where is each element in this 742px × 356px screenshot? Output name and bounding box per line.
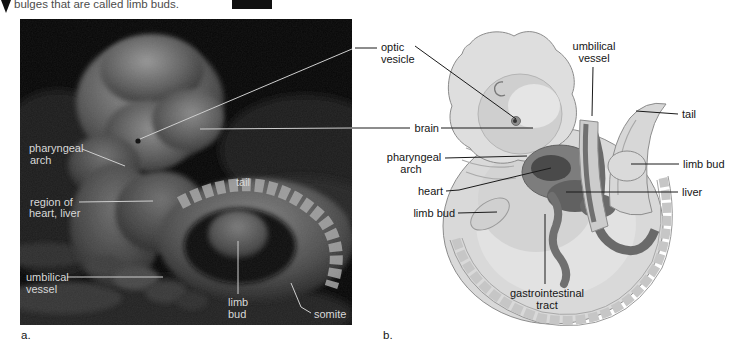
textbook-figure: bulges that are called limb buds.: [0, 0, 742, 356]
label-somite-a: somite: [314, 308, 346, 320]
label-region-heart-liver-line2: heart, liver: [29, 207, 81, 219]
sem-embryo-artwork: [0, 19, 390, 353]
figure-canvas: bulges that are called limb buds.: [0, 0, 742, 356]
label-tail-b: tail: [682, 108, 696, 120]
label-liver-b: liver: [682, 186, 703, 198]
panel-b-tag: b.: [383, 329, 393, 341]
umbilical-vessel-leader-b: [592, 67, 593, 116]
label-limb-bud-left-b: limb bud: [413, 207, 455, 219]
label-pharyngeal-arch-a-line1: pharyngeal: [29, 142, 83, 154]
label-pharyngeal-arch-a-line2: arch: [30, 154, 51, 166]
label-pharyngeal-arch-b-line2: arch: [400, 163, 421, 175]
label-brain-b: brain: [415, 122, 439, 134]
label-umbilical-vessel-b-line1: umbilical: [573, 40, 616, 52]
label-heart-b: heart: [418, 185, 443, 197]
black-marker-bar: [232, 0, 272, 9]
down-arrow-icon: [1, 0, 11, 13]
label-optic-vesicle-line2: vesicle: [381, 53, 415, 65]
label-umbilical-vessel-b-line2: vessel: [578, 52, 609, 64]
top-caption-strip: bulges that are called limb buds.: [1, 0, 272, 13]
label-umbilical-vessel-a-line1: umbilical: [26, 271, 69, 283]
label-limb-bud-right-b: limb bud: [683, 158, 725, 170]
embryo-drawing: [443, 32, 672, 326]
top-caption-text: bulges that are called limb buds.: [14, 0, 179, 10]
label-pharyngeal-arch-b-line1: pharyngeal: [387, 151, 441, 163]
label-limb-bud-a-line1: limb: [228, 296, 248, 308]
panel-a-sem-micrograph: pharyngeal arch region of heart, liver u…: [0, 19, 390, 353]
label-optic-vesicle-line1: optic: [381, 41, 405, 53]
panel-a-tag: a.: [21, 329, 31, 341]
label-tail-a: tail: [236, 176, 250, 188]
label-limb-bud-a-line2: bud: [228, 308, 246, 320]
label-umbilical-vessel-a-line2: vessel: [26, 283, 57, 295]
panel-b-illustration: optic vesicle umbilical vessel tail brai…: [381, 32, 725, 341]
label-gastrointestinal-line2: tract: [536, 299, 557, 311]
label-gastrointestinal-line1: gastrointestinal: [510, 287, 584, 299]
limb-bud-right-shape: [608, 151, 646, 181]
